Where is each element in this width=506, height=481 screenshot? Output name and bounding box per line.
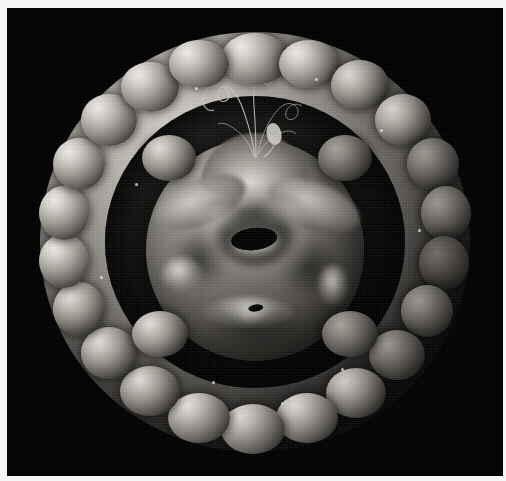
surface-speck [341,368,344,371]
shell-lobe [53,138,105,190]
surface-speck [281,402,284,405]
shell-lobe [39,234,89,288]
specular-blotch-upper-right [260,199,312,227]
shell-lobe [53,282,105,336]
shell-lobe [318,135,372,181]
shell-lobe [279,40,339,88]
surface-speck [212,381,215,384]
specular-blotch-upper-left [194,205,242,231]
shell-lobe [401,285,453,337]
specimen [40,32,470,452]
shell-lobe [142,135,196,181]
specular-blotch-left [162,257,202,291]
surface-speck [135,183,138,186]
shell-lobe [331,60,389,110]
surface-speck [100,276,103,279]
shell-lobe [419,236,469,290]
screenshot-viewport [0,0,506,481]
specular-blotch-right [318,265,348,305]
surface-speck [195,87,198,90]
micrograph-field [7,8,503,476]
shell-lobe [421,186,471,240]
shell-lobe [81,327,137,379]
shell-lobe [276,393,338,443]
shell-lobe [39,186,89,240]
shell-lobe [169,40,229,88]
shell-lobe [120,366,180,416]
shell-lobe [221,404,285,454]
shell-lobe [322,311,378,357]
specular-blotch-bottom [202,297,294,327]
surface-speck [380,129,383,132]
